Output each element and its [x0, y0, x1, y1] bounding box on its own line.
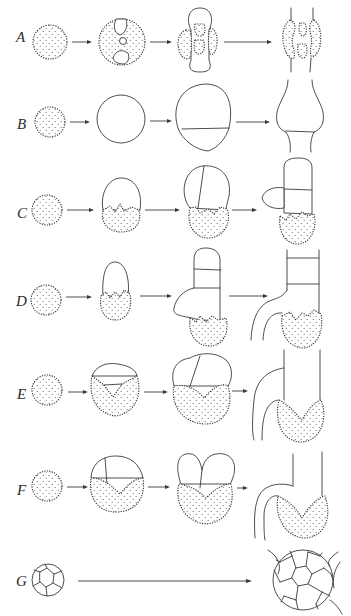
spore-f3 — [178, 454, 235, 524]
arrow-icon — [148, 485, 170, 489]
arrow-icon — [140, 294, 172, 298]
row-b — [35, 80, 323, 152]
spore-e2 — [91, 364, 139, 417]
spore-b2 — [97, 95, 145, 143]
spore-c2 — [102, 178, 140, 232]
spore-c3 — [184, 166, 229, 238]
spore-e4 — [253, 350, 324, 442]
arrow-icon — [66, 295, 92, 299]
arrow-icon — [68, 390, 88, 394]
spore-b3 — [176, 84, 231, 151]
spore-f1 — [32, 471, 62, 501]
arrow-icon — [232, 389, 248, 393]
spore-a2 — [99, 19, 145, 65]
spore-c1 — [32, 195, 62, 225]
spore-d2 — [101, 262, 131, 320]
spore-f2 — [90, 456, 143, 512]
row-g — [32, 550, 342, 614]
spore-e3 — [173, 354, 232, 424]
spore-f4 — [255, 452, 328, 540]
arrow-icon — [145, 208, 180, 212]
spore-d4 — [251, 250, 322, 348]
arrow-icon — [67, 485, 88, 489]
arrow-icon — [236, 120, 270, 124]
row-f — [32, 452, 328, 540]
arrow-icon — [67, 208, 94, 212]
arrow-icon — [78, 579, 252, 583]
spore-g1 — [32, 564, 64, 596]
arrow-icon — [224, 40, 272, 44]
arrow-icon — [144, 390, 168, 394]
spore-d3 — [174, 248, 227, 346]
row-a — [33, 8, 321, 72]
spore-b4 — [277, 80, 324, 152]
spore-c4 — [262, 158, 315, 244]
row-c — [32, 158, 315, 244]
spore-a1 — [33, 25, 67, 59]
spore-a3 — [178, 8, 217, 72]
arrow-icon — [232, 208, 257, 212]
spore-a4 — [283, 8, 321, 72]
arrow-icon — [72, 40, 92, 44]
germination-diagram — [0, 0, 351, 616]
row-e — [32, 350, 324, 442]
arrow-icon — [70, 120, 90, 124]
spore-g2 — [268, 550, 342, 614]
row-d — [31, 248, 322, 348]
spore-d1 — [31, 285, 61, 315]
spore-e1 — [32, 375, 62, 405]
arrow-icon — [229, 294, 268, 298]
spore-b1 — [35, 107, 65, 137]
arrow-icon — [150, 40, 172, 44]
arrow-icon — [150, 119, 172, 123]
arrow-icon — [237, 486, 248, 490]
